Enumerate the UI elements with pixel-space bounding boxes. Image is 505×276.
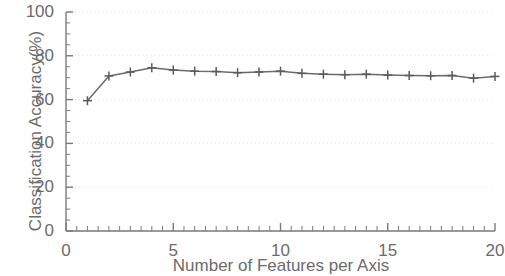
data-point-marker [491, 72, 500, 81]
data-point-marker [147, 63, 156, 72]
x-tick-label: 5 [169, 241, 178, 261]
data-point-marker [276, 67, 285, 76]
x-tick-label: 10 [271, 241, 290, 261]
data-point-marker [126, 68, 135, 77]
y-tick-label: 100 [0, 2, 54, 22]
y-tick-label: 60 [0, 90, 54, 110]
data-point-marker [255, 68, 264, 77]
data-point-marker [469, 74, 478, 83]
data-point-marker [297, 69, 306, 78]
data-point-marker [448, 71, 457, 80]
data-point-marker [340, 70, 349, 79]
x-tick-label: 20 [486, 241, 505, 261]
x-tick-label: 15 [378, 241, 397, 261]
y-tick-label: 80 [0, 46, 54, 66]
y-tick-label: 20 [0, 177, 54, 197]
data-point-marker [319, 70, 328, 79]
data-point-marker [212, 67, 221, 76]
data-point-marker [426, 71, 435, 80]
data-point-marker [383, 71, 392, 80]
y-tick-label: 0 [0, 221, 54, 241]
data-point-marker [169, 66, 178, 75]
x-tick-label: 0 [61, 241, 70, 261]
data-point-marker [405, 71, 414, 80]
data-point-marker [190, 67, 199, 76]
data-point-marker [233, 68, 242, 77]
y-tick-label: 40 [0, 133, 54, 153]
data-series-line [87, 68, 495, 101]
data-point-marker [362, 70, 371, 79]
